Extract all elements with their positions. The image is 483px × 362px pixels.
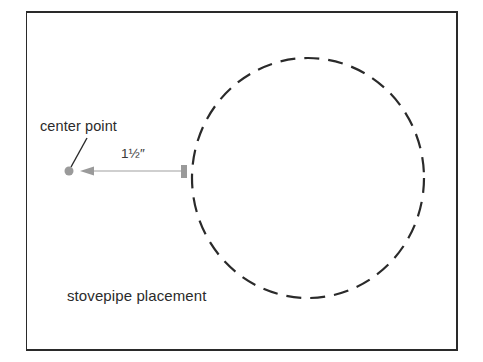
center-point-label: center point	[40, 119, 117, 134]
circle-edge-marker	[181, 165, 187, 178]
stovepipe-placement-label: stovepipe placement	[67, 288, 207, 303]
measurement-arrowhead-icon	[80, 167, 94, 176]
center-point-dot	[65, 167, 74, 176]
center-point-leader-line	[71, 138, 87, 167]
stovepipe-circle	[192, 58, 424, 298]
diagram-canvas	[0, 0, 483, 362]
measurement-label: 1½″	[121, 147, 145, 161]
